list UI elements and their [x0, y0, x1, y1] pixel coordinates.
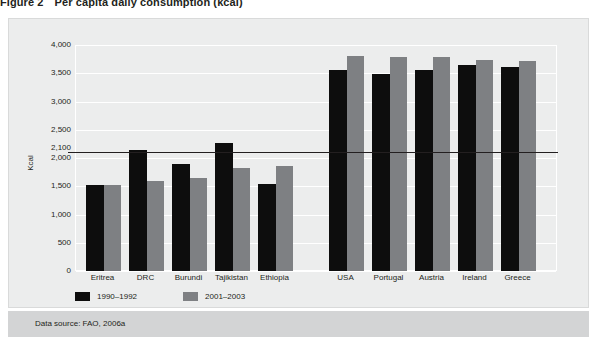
legend-label: 1990–1992	[97, 292, 137, 301]
bar-usa-1990	[329, 70, 347, 271]
bar-eritrea-1990	[86, 185, 104, 271]
legend-label: 2001–2003	[205, 292, 245, 301]
bar-austria-2001	[433, 57, 451, 271]
x-tick-label-eritrea: Eritrea	[91, 273, 115, 282]
y-tick-label-4000: 4,000	[51, 41, 71, 49]
legend-item-19901992: 1990–1992	[75, 292, 137, 301]
chart-legend: 1990–19922001–2003	[75, 292, 291, 301]
y-tick-label-3000: 3,000	[51, 98, 71, 106]
x-tick-label-drc: DRC	[137, 273, 154, 282]
x-tick-label-ireland: Ireland	[462, 273, 486, 282]
bar-tajikistan-2001	[233, 168, 251, 271]
x-tick-label-burundi: Burundi	[175, 273, 203, 282]
bar-drc-2001	[147, 181, 165, 271]
x-axis-categories: EritreaDRCBurundiTajikistanEthiopiaUSAPo…	[75, 273, 557, 289]
figure-number: Figure 2	[0, 0, 44, 8]
bar-greece-2001	[519, 61, 537, 271]
x-tick-label-portugal: Portugal	[374, 273, 404, 282]
source-note: Data source: FAO, 2006a	[35, 319, 125, 328]
bar-usa-2001	[347, 56, 365, 271]
y-tick-label-2000: 2,000	[51, 154, 71, 162]
chart-panel: Kcal 05001,0001,5002,0002,5003,0003,5004…	[8, 18, 589, 308]
bar-group-ethiopia	[258, 45, 293, 271]
bar-group-burundi	[172, 45, 207, 271]
y-tick-label-1500: 1,500	[51, 182, 71, 190]
y-tick-label-2500: 2,500	[51, 126, 71, 134]
bar-group-usa	[329, 45, 364, 271]
x-tick-label-ethiopia: Ethiopia	[260, 273, 289, 282]
y-tick-label-0: 0	[67, 267, 71, 275]
bar-group-greece	[501, 45, 536, 271]
bar-eritrea-2001	[104, 185, 122, 271]
bar-group-drc	[129, 45, 164, 271]
plot-area: 05001,0001,5002,0002,5003,0003,5004,0002…	[75, 45, 557, 271]
bar-ethiopia-2001	[276, 166, 294, 271]
bar-group-tajikistan	[215, 45, 250, 271]
x-tick-label-tajikistan: Tajikistan	[215, 273, 248, 282]
bars-layer	[76, 45, 556, 271]
bar-burundi-2001	[190, 178, 208, 271]
legend-swatch-icon	[75, 292, 90, 301]
bar-portugal-1990	[372, 74, 390, 271]
source-strip: Data source: FAO, 2006a	[8, 311, 589, 337]
bar-austria-1990	[415, 70, 433, 271]
bar-ethiopia-1990	[258, 184, 276, 271]
bar-portugal-2001	[390, 57, 408, 271]
x-tick-label-greece: Greece	[504, 273, 530, 282]
legend-item-20012003: 2001–2003	[183, 292, 245, 301]
figure-caption: Figure 2Per capita daily consumption (kc…	[0, 0, 597, 14]
reference-line	[68, 152, 558, 153]
bar-greece-1990	[501, 67, 519, 271]
y-tick-label-500: 500	[58, 239, 71, 247]
y-tick-label-1000: 1,000	[51, 211, 71, 219]
figure-page: Figure 2Per capita daily consumption (kc…	[0, 0, 597, 339]
bar-group-austria	[415, 45, 450, 271]
y-axis-title: Kcal	[26, 155, 35, 171]
y-tick-label-3500: 3,500	[51, 69, 71, 77]
figure-title: Per capita daily consumption (kcal)	[55, 0, 243, 8]
bar-ireland-2001	[476, 60, 494, 271]
bar-burundi-1990	[172, 164, 190, 271]
bar-ireland-1990	[458, 65, 476, 271]
legend-swatch-icon	[183, 292, 198, 301]
bar-group-eritrea	[86, 45, 121, 271]
x-tick-label-austria: Austria	[419, 273, 444, 282]
x-tick-label-usa: USA	[337, 273, 353, 282]
bar-tajikistan-1990	[215, 143, 233, 271]
reference-line-label: 2,100	[51, 144, 71, 152]
bar-drc-1990	[129, 150, 147, 271]
bar-group-portugal	[372, 45, 407, 271]
bar-group-ireland	[458, 45, 493, 271]
